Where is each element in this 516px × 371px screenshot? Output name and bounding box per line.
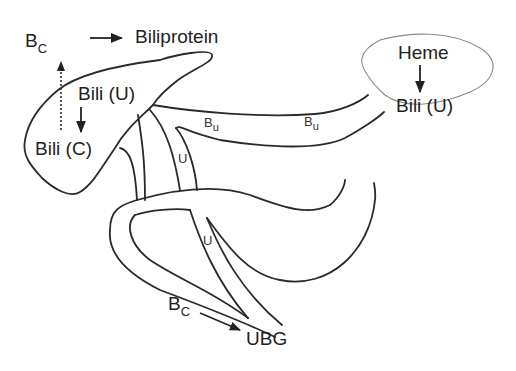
portal-vessel-mid: [150, 110, 180, 190]
arrow-bc-ubg: [200, 313, 240, 330]
mesenteric-vein-left: [190, 210, 248, 318]
intestine-top: [137, 180, 345, 210]
bili-u-liver-label: Bili (U): [78, 83, 135, 104]
intestine-outer: [110, 200, 275, 337]
ubg-label: UBG: [246, 328, 287, 349]
splenic-vein-upper: [153, 95, 368, 115]
u-label-2: U: [203, 233, 212, 248]
portal-vessel-left2: [120, 148, 137, 200]
bu-label-2: Bu: [304, 114, 319, 132]
bilirubin-diagram: BC Biliprotein Bili (U) Bili (C) Heme Bi…: [0, 0, 516, 371]
intestine-inner-top: [135, 209, 190, 215]
bili-c-label: Bili (C): [35, 138, 92, 159]
heme-label: Heme: [398, 42, 449, 63]
bc-top-label: BC: [25, 30, 47, 56]
bu-label-1: Bu: [204, 115, 219, 133]
u-label-1: U: [178, 151, 187, 166]
portal-vessel-left: [138, 115, 145, 200]
biliprotein-label: Biliprotein: [135, 26, 218, 47]
bili-u-spleen-label: Bili (U): [396, 95, 453, 116]
bc-bottom-label: BC: [168, 293, 190, 319]
liver-outline: [24, 52, 212, 194]
